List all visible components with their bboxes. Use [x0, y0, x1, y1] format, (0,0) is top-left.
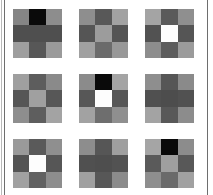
patch-5 [79, 74, 128, 123]
patch-1 [13, 9, 62, 58]
patch-cell [95, 9, 111, 25]
patch-cell [112, 172, 128, 188]
patch-cell [46, 107, 62, 123]
patch-cell [29, 9, 45, 25]
patch-cell [161, 74, 177, 90]
patch-cell [46, 139, 62, 155]
patch-cell [13, 9, 29, 25]
patch-cell [29, 139, 45, 155]
patch-cell [178, 107, 194, 123]
patch-cell [13, 107, 29, 123]
patch-cell [95, 74, 111, 90]
patch-cell [79, 42, 95, 58]
patch-cell [95, 42, 111, 58]
patch-cell [29, 42, 45, 58]
patch-cell [178, 139, 194, 155]
patch-cell [46, 9, 62, 25]
patch-cell [145, 42, 161, 58]
patch-2 [79, 9, 128, 58]
patch-3 [145, 9, 194, 58]
patch-cell [178, 74, 194, 90]
patch-cell [145, 9, 161, 25]
patch-cell [145, 172, 161, 188]
figure-root [0, 0, 213, 195]
patch-cell [161, 25, 177, 41]
patch-cell [112, 139, 128, 155]
patch-cell [112, 155, 128, 171]
patch-cell [161, 139, 177, 155]
patch-cell [161, 107, 177, 123]
frame-rule-left-outer [1, 0, 2, 195]
patch-cell [79, 155, 95, 171]
patch-cell [145, 25, 161, 41]
patch-cell [95, 139, 111, 155]
patch-cell [178, 172, 194, 188]
patch-cell [112, 42, 128, 58]
patch-cell [29, 172, 45, 188]
patch-cell [161, 155, 177, 171]
patch-cell [178, 25, 194, 41]
patch-cell [95, 155, 111, 171]
patch-cell [95, 25, 111, 41]
patch-cell [112, 25, 128, 41]
patch-cell [145, 155, 161, 171]
patch-cell [79, 74, 95, 90]
patch-cell [13, 42, 29, 58]
patch-cell [13, 90, 29, 106]
patch-cell [29, 155, 45, 171]
patch-8 [79, 139, 128, 188]
patch-cell [79, 139, 95, 155]
patch-cell [13, 155, 29, 171]
patch-cell [95, 90, 111, 106]
patch-cell [161, 42, 177, 58]
patch-cell [46, 42, 62, 58]
patch-cell [46, 172, 62, 188]
patch-cell [178, 9, 194, 25]
frame-rule-left [4, 0, 5, 195]
patch-cell [13, 74, 29, 90]
patch-cell [145, 107, 161, 123]
patch-9 [145, 139, 194, 188]
patch-cell [95, 172, 111, 188]
patch-cell [79, 107, 95, 123]
patch-cell [46, 90, 62, 106]
patch-7 [13, 139, 62, 188]
patch-cell [145, 139, 161, 155]
patch-cell [13, 139, 29, 155]
patch-cell [29, 90, 45, 106]
patch-cell [161, 172, 177, 188]
patch-cell [79, 9, 95, 25]
frame-rule-right [207, 0, 208, 195]
patch-cell [29, 25, 45, 41]
patch-cell [46, 74, 62, 90]
patch-cell [13, 172, 29, 188]
patch-6 [145, 74, 194, 123]
patch-cell [161, 9, 177, 25]
patch-cell [79, 25, 95, 41]
patch-cell [145, 74, 161, 90]
patch-4 [13, 74, 62, 123]
patch-cell [112, 90, 128, 106]
patch-cell [13, 25, 29, 41]
patch-cell [145, 90, 161, 106]
patch-cell [79, 90, 95, 106]
patch-cell [178, 155, 194, 171]
patch-cell [161, 90, 177, 106]
patch-cell [112, 74, 128, 90]
patch-cell [46, 155, 62, 171]
patch-cell [95, 107, 111, 123]
patch-cell [29, 74, 45, 90]
patch-cell [29, 107, 45, 123]
patch-cell [79, 172, 95, 188]
patch-cell [178, 42, 194, 58]
patch-cell [112, 9, 128, 25]
patch-cell [46, 25, 62, 41]
patch-cell [178, 90, 194, 106]
patch-grid [13, 9, 195, 187]
patch-cell [112, 107, 128, 123]
